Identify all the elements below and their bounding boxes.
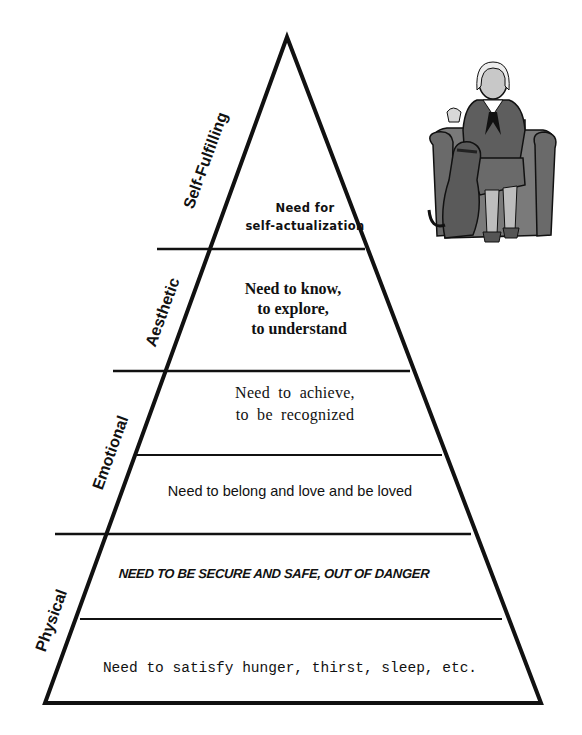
- level-knowledge-line1: Need to know,: [218, 279, 368, 299]
- level-achievement-line1: Need to achieve,: [195, 382, 395, 404]
- level-physiological-line1: Need to satisfy hunger, thirst, sleep, e…: [60, 660, 520, 676]
- pyramid-shape: [0, 0, 582, 735]
- level-knowledge-line3: to understand: [218, 319, 368, 339]
- hierarchy-of-needs-diagram: Self-Fulfilling Aesthetic Emotional Phys…: [0, 0, 582, 735]
- level-self-actualization-line2: self-actualization: [240, 217, 370, 235]
- level-knowledge-line2: to explore,: [218, 299, 368, 319]
- level-safety-line1: NEED TO BE SECURE AND SAFE, OUT OF DANGE…: [103, 566, 444, 581]
- level-belonging-line1: Need to belong and love and be loved: [135, 483, 445, 499]
- level-achievement-line2: to be recognized: [195, 404, 395, 426]
- woman-with-dog-illustration: [429, 62, 556, 242]
- level-achievement: Need to achieve, to be recognized: [195, 382, 395, 426]
- level-safety: NEED TO BE SECURE AND SAFE, OUT OF DANGE…: [103, 566, 444, 581]
- level-self-actualization-line1: Need for: [240, 199, 370, 217]
- level-belonging: Need to belong and love and be loved: [135, 483, 445, 499]
- level-self-actualization: Need for self-actualization: [240, 199, 370, 235]
- level-physiological: Need to satisfy hunger, thirst, sleep, e…: [60, 660, 520, 676]
- level-knowledge: Need to know, to explore, to understand: [218, 279, 368, 339]
